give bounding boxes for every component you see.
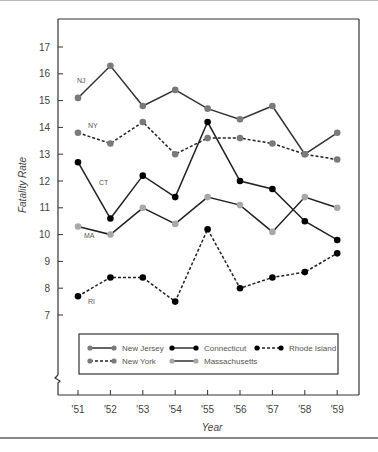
data-point-ct: [204, 119, 211, 126]
data-point-ma: [269, 229, 276, 236]
series-label-ct: CT: [99, 179, 109, 186]
y-tick-label: 12: [39, 176, 51, 187]
data-point-ny: [75, 129, 82, 136]
series-label-nj: NJ: [77, 77, 86, 84]
line-chart: 7891011121314151617'51'52'53'54'55'56'57…: [0, 0, 378, 452]
data-point-ny: [140, 119, 147, 126]
x-tick-label: '54: [169, 404, 182, 415]
data-point-ny: [172, 151, 179, 158]
x-tick-label: '58: [298, 404, 311, 415]
x-tick-label: '53: [136, 404, 149, 415]
data-point-ma: [75, 223, 82, 230]
series-line-ri: [78, 229, 337, 301]
data-point-ct: [269, 186, 276, 193]
y-tick-label: 13: [39, 149, 51, 160]
data-point-ct: [237, 178, 244, 185]
x-tick-label: '51: [71, 404, 84, 415]
legend-label: Rhode Island: [289, 344, 336, 353]
x-axis-title: Year: [202, 422, 223, 433]
data-point-ri: [140, 274, 147, 281]
legend-marker: [111, 345, 116, 350]
axis-break-icon: [55, 375, 60, 395]
data-point-ny: [269, 140, 276, 147]
data-point-ma: [237, 202, 244, 209]
y-tick-label: 17: [39, 42, 51, 53]
data-point-ri: [75, 293, 82, 300]
data-point-ct: [107, 215, 114, 222]
legend-marker: [278, 345, 283, 350]
x-tick-label: '57: [266, 404, 279, 415]
legend-label: New Jersey: [122, 344, 164, 353]
data-point-ma: [172, 221, 179, 228]
legend-marker: [193, 345, 198, 350]
data-point-ct: [334, 237, 341, 244]
y-tick-label: 11: [40, 202, 51, 213]
series-label-ny: NY: [88, 122, 98, 129]
y-tick-label: 9: [44, 256, 50, 267]
data-point-nj: [269, 103, 276, 110]
data-point-ct: [302, 218, 309, 225]
data-point-nj: [204, 105, 211, 112]
legend-label: Massachusetts: [204, 357, 257, 366]
data-point-ma: [107, 231, 114, 238]
legend-marker: [87, 358, 92, 363]
x-tick-label: '52: [104, 404, 117, 415]
legend-marker: [254, 345, 259, 350]
y-tick-label: 8: [44, 283, 50, 294]
data-point-ri: [269, 274, 276, 281]
data-point-ct: [75, 159, 82, 166]
data-point-ri: [302, 269, 309, 276]
x-tick-label: '56: [233, 404, 246, 415]
data-point-ny: [302, 151, 309, 158]
bottom-rule: [0, 437, 378, 439]
data-point-ma: [334, 205, 341, 212]
series-label-ma: MA: [84, 232, 95, 239]
legend-label: New York: [122, 357, 157, 366]
data-point-nj: [107, 62, 114, 69]
data-point-ct: [140, 172, 147, 179]
y-axis-title: Fatality Rate: [17, 156, 28, 213]
x-tick-label: '55: [201, 404, 214, 415]
data-point-nj: [75, 95, 82, 102]
data-point-ma: [140, 205, 147, 212]
data-point-nj: [172, 87, 179, 94]
legend-marker: [193, 358, 198, 363]
y-tick-label: 7: [44, 310, 50, 321]
legend-label: Connecticut: [204, 344, 247, 353]
data-point-ri: [334, 250, 341, 257]
legend-marker: [169, 358, 174, 363]
data-point-ma: [204, 194, 211, 201]
y-tick-label: 16: [39, 68, 51, 79]
data-point-nj: [237, 116, 244, 123]
y-tick-label: 14: [39, 122, 51, 133]
data-point-ri: [237, 285, 244, 292]
legend-marker: [169, 345, 174, 350]
data-point-ny: [334, 156, 341, 163]
y-tick-label: 15: [39, 95, 51, 106]
data-point-ny: [107, 140, 114, 147]
series-label-ri: RI: [88, 298, 95, 305]
legend-marker: [111, 358, 116, 363]
data-point-ri: [107, 274, 114, 281]
data-point-ny: [237, 135, 244, 142]
data-point-ny: [204, 135, 211, 142]
x-tick-label: '59: [331, 404, 344, 415]
data-point-ma: [302, 194, 309, 201]
data-point-ri: [172, 298, 179, 305]
legend-box: [79, 334, 338, 374]
legend-marker: [87, 345, 92, 350]
data-point-nj: [334, 129, 341, 136]
data-point-ct: [172, 194, 179, 201]
data-point-ri: [204, 226, 211, 233]
data-point-nj: [140, 103, 147, 110]
y-tick-label: 10: [39, 229, 51, 240]
